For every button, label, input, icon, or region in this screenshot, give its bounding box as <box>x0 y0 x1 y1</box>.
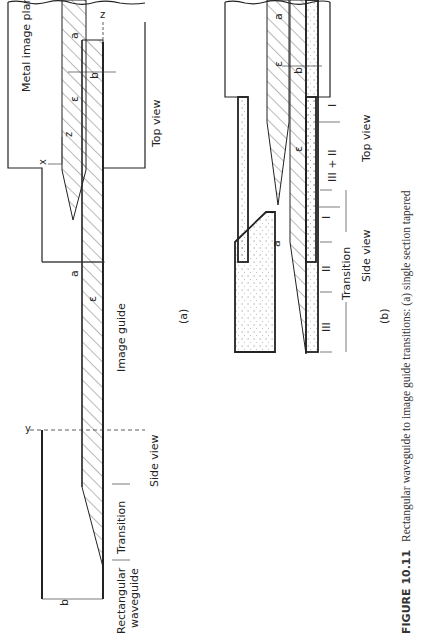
figure-canvas: y z b b ε Rectangular waveguide Transiti… <box>0 0 432 642</box>
eps-r-label-top: ε <box>68 96 81 102</box>
transition-label: Transition <box>340 247 353 301</box>
eps-r-label: ε <box>86 296 99 302</box>
panel-a-label: (a) <box>177 309 190 324</box>
dim-b-label: b <box>88 72 101 79</box>
rotated-figure-page: y z b b ε Rectangular waveguide Transiti… <box>0 0 432 642</box>
top-view-title-a: Top view <box>150 100 163 148</box>
region-rect-label: Rectangular <box>115 567 128 634</box>
axis-x-label: x <box>37 159 48 165</box>
sec-iii-ii-label: III + II <box>326 150 339 182</box>
dim-b0-label: b <box>58 599 71 606</box>
top-view-title-b: Top view <box>360 115 373 163</box>
panel-a-side-view: y z b b ε Rectangular waveguide Transiti… <box>25 9 161 634</box>
dim-a-label-b: a <box>272 13 285 20</box>
axis-z-label: z <box>100 9 105 20</box>
sec-i-label: I <box>320 216 333 219</box>
dim-a0-label-b: a <box>270 240 283 247</box>
figure-caption: Rectangular waveguide to image guide tra… <box>400 190 413 542</box>
sec-iii-label: III <box>320 322 333 332</box>
axis-z-label-top: z <box>63 132 74 137</box>
region-image-label: Image guide <box>115 303 128 372</box>
panel-b-label: (b) <box>378 308 391 324</box>
side-view-title-a: Side view <box>148 434 161 487</box>
eps-r-label-b: ε <box>292 146 305 152</box>
dim-b-label-b: b <box>292 67 305 74</box>
sec-i-label-top: I <box>326 104 339 107</box>
dim-a-label: a <box>68 32 81 39</box>
metal-plane-label: Metal image plane <box>20 0 33 92</box>
side-view-title-b: Side view <box>360 229 373 282</box>
sec-ii-label: II <box>320 266 333 273</box>
dim-a0-label: a <box>68 270 81 277</box>
panel-b-side-view: III II I Transition Side view ε b <box>235 0 373 354</box>
axis-y-label: y <box>25 423 31 434</box>
region-transition-label: Transition <box>115 501 128 555</box>
eps-r-label-b-top: ε <box>272 61 285 67</box>
region-rect-label-2: waveguide <box>128 568 141 628</box>
figure-number: FIGURE 10.11 <box>400 550 413 634</box>
